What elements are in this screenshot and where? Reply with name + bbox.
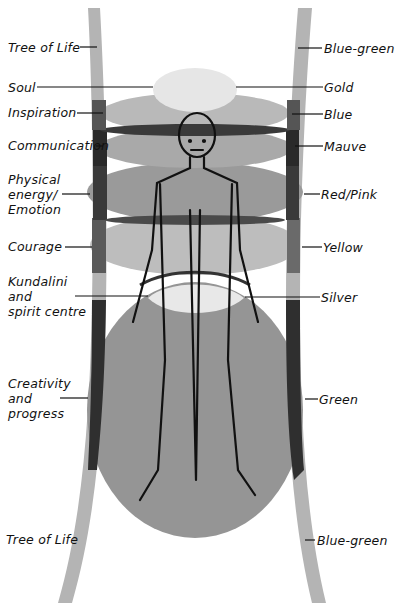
label-blue-green-bottom: Blue-green [317,533,388,548]
label-tree-of-life-top: Tree of Life [8,40,80,55]
label-line: Physical [8,172,61,187]
label-blue: Blue [324,107,352,122]
red-pink-aura-oval [87,162,303,222]
yellow-left-overlap [92,218,106,273]
blue-left-overlap [92,100,106,130]
red-right-overlap [286,165,299,220]
mauve-right-overlap [286,130,299,166]
label-silver: Silver [321,290,357,305]
label-line: progress [8,406,71,421]
label-physical-energy: Physical energy/ Emotion [8,172,61,217]
label-red-pink: Red/Pink [321,187,377,202]
label-mauve: Mauve [324,139,366,154]
gold-aura-oval [153,68,237,112]
label-soul: Soul [8,80,36,95]
label-line: and [8,391,71,406]
label-line: Creativity [8,376,71,391]
yellow-right-overlap [287,218,300,273]
label-line: Kundalini [8,274,86,289]
label-line: and [8,289,86,304]
label-line: Emotion [8,202,61,217]
label-tree-of-life-bottom: Tree of Life [6,532,78,547]
label-communication: Communication [8,138,109,153]
label-yellow: Yellow [323,240,363,255]
red-lower-dark-band [105,215,285,225]
blue-dark-band [100,124,290,136]
label-line: energy/ [8,187,61,202]
label-blue-green-top: Blue-green [324,41,395,56]
label-creativity: Creativity and progress [8,376,71,421]
label-kundalini: Kundalini and spirit centre [8,274,86,319]
blue-right-overlap [287,100,300,130]
label-gold: Gold [324,80,354,95]
red-left-overlap [93,165,107,220]
label-green: Green [319,392,358,407]
label-line: spirit centre [8,304,86,319]
label-inspiration: Inspiration [8,105,76,120]
label-courage: Courage [8,239,62,254]
